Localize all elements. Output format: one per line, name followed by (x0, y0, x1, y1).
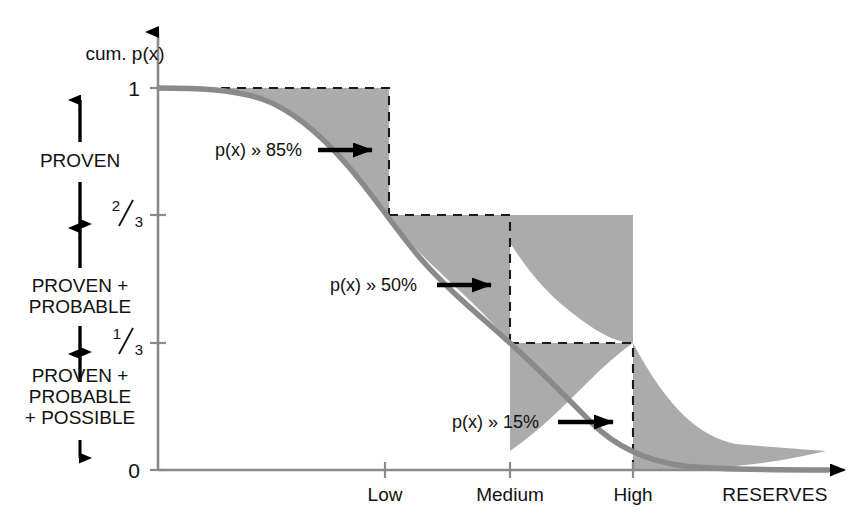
x-tick-label-medium: Medium (476, 484, 544, 505)
y-tick-label-1-3-denominator: 3 (135, 341, 143, 358)
annotation-label-85: p(x) » 85% (215, 140, 302, 160)
y-tick-label-1: 1 (128, 77, 140, 100)
y-tick-label-0: 0 (128, 459, 140, 482)
category-label-possible-line2: PROBABLE (29, 386, 131, 407)
x-tick-label-low: Low (368, 484, 403, 505)
category-bracket-column: PROVEN PROVEN + PROBABLE PROVEN + PROBAB… (25, 100, 135, 458)
y-tick-label-2-3-denominator: 3 (135, 213, 143, 230)
x-tick-labels: Low Medium High (368, 484, 653, 505)
category-label-possible-line1: PROVEN + (32, 365, 129, 386)
category-label-possible-line3: + POSSIBLE (25, 407, 135, 428)
shaded-region-possible (633, 343, 826, 470)
y-axis-title: cum. p(x) (85, 43, 164, 64)
curve-upper-mask (158, 70, 858, 88)
annotation-possible: p(x) » 15% (452, 412, 613, 432)
category-label-probable-line2: PROBABLE (29, 296, 131, 317)
category-label-proven: PROVEN (40, 150, 120, 171)
figure-canvas: 1 2 3 1 3 0 cum. p(x) Low Medium High RE… (0, 0, 867, 522)
x-axis-title: RESERVES (722, 484, 828, 505)
fraction-slash-2-3 (119, 200, 133, 226)
y-tick-label-2-3-numerator: 2 (112, 197, 120, 214)
y-tick-label-1-3: 1 3 (113, 325, 143, 358)
reserves-probability-chart: 1 2 3 1 3 0 cum. p(x) Low Medium High RE… (0, 0, 867, 522)
annotation-label-15: p(x) » 15% (452, 412, 539, 432)
y-tick-label-2-3: 2 3 (112, 197, 143, 230)
category-label-probable-line1: PROVEN + (32, 275, 129, 296)
y-tick-label-1-3-numerator: 1 (113, 325, 121, 342)
annotation-label-50: p(x) » 50% (330, 275, 417, 295)
x-tick-label-high: High (613, 484, 652, 505)
shaded-region-probable (510, 215, 633, 343)
